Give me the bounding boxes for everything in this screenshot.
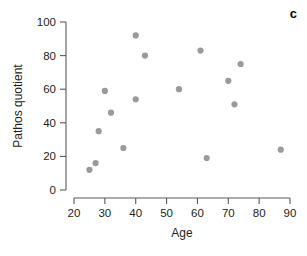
data-point (238, 61, 244, 67)
data-point (278, 147, 284, 153)
data-point (133, 32, 139, 38)
y-axis: 020406080100 (37, 16, 66, 196)
data-points (86, 32, 284, 173)
data-point (102, 88, 108, 94)
data-point (120, 145, 126, 151)
data-point (93, 160, 99, 166)
data-point (108, 110, 114, 116)
x-tick-label: 70 (222, 207, 235, 219)
y-tick-label: 80 (43, 50, 56, 62)
x-tick-label: 20 (68, 207, 81, 219)
y-tick-label: 20 (43, 150, 56, 162)
data-point (225, 78, 231, 84)
y-tick-label: 60 (43, 83, 56, 95)
x-tick-label: 80 (253, 207, 266, 219)
data-point (197, 47, 203, 53)
data-point (96, 128, 102, 134)
x-tick-label: 90 (284, 207, 297, 219)
data-point (176, 86, 182, 92)
x-axis-title: Age (171, 226, 193, 240)
scatter-plot: 020406080100 2030405060708090 Age Pathos… (0, 0, 307, 256)
data-point (231, 101, 237, 107)
y-tick-label: 40 (43, 117, 56, 129)
data-point (204, 155, 210, 161)
x-axis: 2030405060708090 (68, 198, 297, 219)
x-tick-label: 30 (98, 207, 111, 219)
x-tick-label: 40 (129, 207, 142, 219)
x-tick-label: 60 (191, 207, 204, 219)
y-tick-label: 0 (50, 184, 56, 196)
x-tick-label: 50 (160, 207, 173, 219)
data-point (133, 96, 139, 102)
y-tick-label: 100 (37, 16, 56, 28)
figure-panel: c 020406080100 2030405060708090 Age Path… (0, 0, 307, 256)
y-axis-title: Pathos quotient (11, 64, 25, 148)
data-point (86, 167, 92, 173)
data-point (142, 53, 148, 59)
